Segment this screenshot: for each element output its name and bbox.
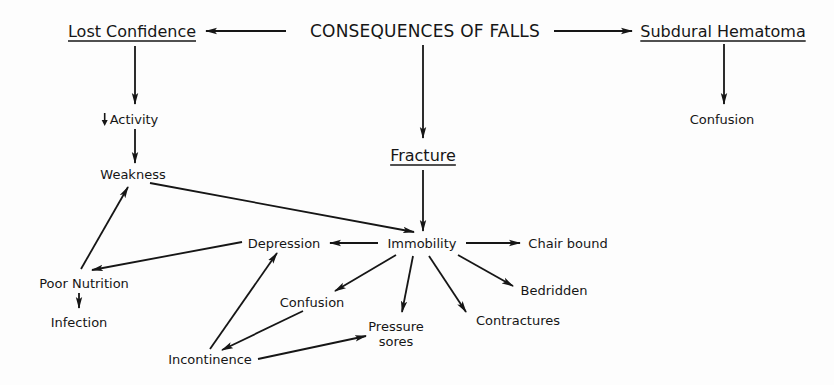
node-label: Pressure [368,319,424,334]
node-label: Confusion [690,112,755,127]
node-label: Bedridden [521,283,588,298]
arrow-poor_nutrition-to-weakness [81,187,128,269]
node-consequences: CONSEQUENCES OF FALLS [310,21,540,41]
arrow-immobility-to-pressure_sores [402,256,413,312]
falls-consequences-diagram: CONSEQUENCES OF FALLSLost ConfidenceSubd… [0,0,834,385]
node-pressure-sores-2: sores [379,334,414,349]
node-weakness: Weakness [100,167,166,182]
node-depression: Depression [248,236,321,251]
node-label: Subdural Hematoma [640,22,805,41]
node-label: Activity [110,112,159,127]
node-incontinence: Incontinence [168,352,252,367]
node-bedridden: Bedridden [521,283,588,298]
arrow-immobility-to-contractures [429,256,466,312]
node-infection: Infection [51,315,108,330]
arrow-immobility-to-confusion_im [335,255,396,291]
node-label: Contractures [476,313,560,328]
node-fracture: Fracture [390,146,456,165]
node-pressure-sores-1: Pressure [368,319,424,334]
node-label: Depression [248,236,321,251]
node-label: Chair bound [528,236,607,251]
arrow-incontinence-to-depression [210,253,277,349]
node-lost-confidence: Lost Confidence [68,22,196,41]
node-label: Confusion [280,295,345,310]
node-label: Infection [51,315,108,330]
node-label: Weakness [100,167,166,182]
node-label: Fracture [390,146,456,165]
node-label: sores [379,334,414,349]
node-confusion-im: Confusion [280,295,345,310]
node-label: Poor Nutrition [39,276,129,291]
node-label: Lost Confidence [68,22,196,41]
node-label: Immobility [388,236,457,251]
arrow-immobility-to-bedridden [458,255,513,286]
node-poor-nutrition: Poor Nutrition [39,276,129,291]
down-arrow-icon [102,113,108,126]
arrow-incontinence-to-pressure_sores [258,336,366,359]
edge-layer [79,31,724,359]
node-activity: Activity [102,112,159,127]
arrow-depression-to-poor_nutrition [92,242,242,270]
node-label: CONSEQUENCES OF FALLS [310,21,540,41]
node-subdural-hematoma: Subdural Hematoma [640,22,805,41]
arrow-weakness-to-immobility [150,183,414,232]
node-contractures: Contractures [476,313,560,328]
node-confusion-sh: Confusion [690,112,755,127]
node-immobility: Immobility [388,236,457,251]
arrow-confusion_im-to-incontinence [222,311,303,350]
node-chair-bound: Chair bound [528,236,607,251]
node-label: Incontinence [168,352,252,367]
